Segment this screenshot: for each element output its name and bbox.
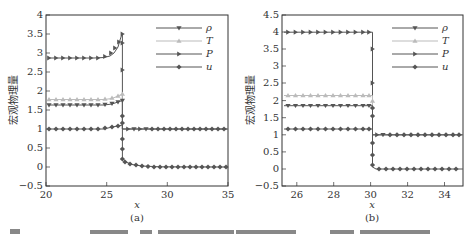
y-tick-a: 1	[37, 123, 43, 134]
y-tick-a: 4	[37, 9, 43, 20]
panel-label-b: (b)	[365, 212, 379, 223]
legend-label-u: u	[206, 61, 212, 72]
x-tick-b: 26	[290, 189, 303, 200]
y-tick-b: 3.5	[263, 43, 279, 54]
legend-label-rho: ρ	[441, 22, 448, 33]
legend-label-T: T	[442, 35, 450, 46]
series-rho-a	[48, 101, 228, 130]
y-axis-b	[282, 15, 286, 186]
y-tick-a: 3.5	[27, 28, 43, 39]
series-T-a	[48, 94, 228, 129]
x-axis-label-a: x	[134, 199, 140, 210]
y-tick-a: 0.5	[27, 142, 43, 153]
x-axis-label-b: x	[369, 199, 375, 210]
y-tick-b: 0	[273, 163, 279, 174]
markers-post-shock-a	[126, 126, 226, 131]
x-tick-b: 32	[401, 189, 414, 200]
series-P-a	[48, 33, 228, 129]
legend-label-rho: ρ	[205, 22, 212, 33]
panel-label-a: (a)	[130, 212, 144, 223]
markers-u-a	[46, 113, 228, 169]
y-tick-b: 4.5	[263, 9, 279, 20]
legend-label-P: P	[205, 48, 213, 59]
x-tick-b: 28	[327, 189, 340, 200]
y-axis-label-b: 宏观物理量	[244, 75, 256, 125]
chart-panel-b: −0.5 0 0.5 1 1.5 2 2.5 3 3.5 4 4.5 26 28…	[244, 9, 463, 223]
legend-label-P: P	[441, 48, 449, 59]
y-tick-b: −0.5	[255, 180, 279, 191]
y-tick-a: 3	[37, 47, 43, 58]
markers-P-b	[286, 30, 375, 86]
series-u-a	[48, 125, 228, 167]
figure-caption	[10, 229, 430, 234]
markers-T-b	[285, 93, 375, 103]
y-tick-b: 3	[273, 60, 279, 71]
chart-panel-a: −0.5 0 0.5 1 1.5 2 2.5 3 3.5 4 20 25 30 …	[7, 9, 234, 223]
x-tick-a: 30	[161, 189, 174, 200]
x-tick-a: 35	[222, 189, 235, 200]
y-tick-a: 0	[37, 161, 43, 172]
y-tick-b: 2.5	[263, 77, 279, 88]
legend-label-T: T	[206, 35, 214, 46]
y-tick-b: 2	[273, 95, 279, 106]
y-tick-b: 4	[273, 26, 279, 37]
y-tick-a: 2	[37, 85, 43, 96]
y-tick-b: 1	[273, 129, 279, 140]
legend-label-u: u	[442, 61, 448, 72]
x-axis-a	[46, 182, 228, 186]
markers-P-a	[47, 31, 125, 72]
x-tick-a: 20	[40, 189, 53, 200]
x-tick-b: 34	[438, 189, 451, 200]
x-axis-b	[297, 182, 445, 186]
y-tick-b: 1.5	[263, 112, 279, 123]
legend-b: ρ T P u	[392, 22, 450, 72]
figure: −0.5 0 0.5 1 1.5 2 2.5 3 3.5 4 20 25 30 …	[0, 0, 474, 234]
y-tick-a: 1.5	[27, 104, 43, 115]
y-axis-label-a: 宏观物理量	[7, 75, 19, 125]
y-tick-a: 2.5	[27, 66, 43, 77]
x-tick-a: 25	[100, 189, 113, 200]
legend-a: ρ T P u	[156, 22, 214, 72]
y-tick-b: 0.5	[263, 146, 279, 157]
